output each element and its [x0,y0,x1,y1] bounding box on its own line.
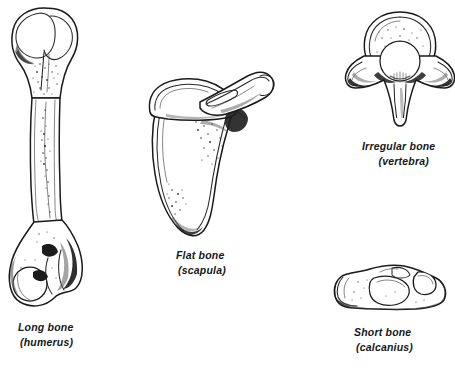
short-bone-caption: Short bone (calcanius) [354,325,413,355]
irregular-bone-caption: Irregular bone (vertebra) [362,139,435,169]
scapula-bone-illustration [142,64,278,244]
short-bone-caption-example: (calcanius) [356,340,413,355]
humerus-bone-illustration [4,6,96,318]
vertebra-bone-illustration [344,8,455,134]
flat-bone-caption: Flat bone (scapula) [176,248,226,278]
vertebra-bone-icon [344,8,455,134]
long-bone-caption-name: Long bone [18,321,73,333]
vertebra-arch-processes [345,41,454,126]
humerus-distal-end [9,220,82,306]
long-bone-caption: Long bone (humerus) [18,320,73,350]
humerus-shaft [30,98,62,224]
humerus-proximal-end [12,8,78,98]
flat-bone-caption-example: (scapula) [178,263,226,278]
flat-bone-caption-name: Flat bone [176,249,224,261]
short-bone-caption-name: Short bone [354,326,411,338]
bone-classification-figure: Long bone (humerus) [0,0,455,368]
humerus-bone-icon [4,6,96,318]
irregular-bone-caption-example: (vertebra) [372,154,435,169]
scapula-bone-icon [142,64,278,244]
long-bone-caption-example: (humerus) [20,335,73,350]
calcaneus-bone-illustration [330,258,450,320]
calcaneus-bone-icon [330,258,450,320]
irregular-bone-caption-name: Irregular bone [362,140,435,152]
